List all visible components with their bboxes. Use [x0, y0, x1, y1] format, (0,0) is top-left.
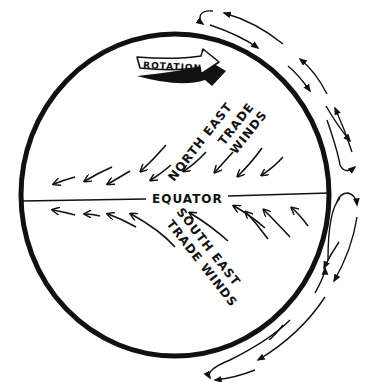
trade-winds-diagram: EQUATOR ROTATION NORTH EAST TRADE WINDS … [0, 0, 368, 382]
equator-label: EQUATOR [152, 192, 223, 206]
circulation-cell-arrows [200, 11, 357, 380]
rotation-label: ROTATION [143, 60, 202, 73]
north-east-trade-winds-label: NORTH EAST TRADE WINDS [165, 100, 270, 184]
